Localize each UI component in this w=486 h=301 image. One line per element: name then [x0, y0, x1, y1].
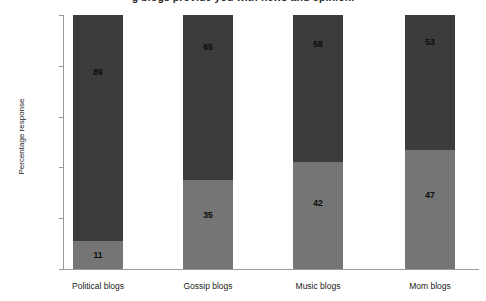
bar-music-blogs-upper-segment[interactable]: 58: [293, 15, 343, 162]
y-tick-80: [59, 66, 63, 67]
bar-music-blogs-upper-value: 58: [313, 40, 322, 49]
y-tick-0: [59, 269, 63, 270]
bar-music-blogs-lower-segment[interactable]: 42: [293, 162, 343, 269]
x-axis-label-music-blogs: Music blogs: [253, 281, 383, 291]
y-tick-100: [59, 15, 63, 16]
y-tick-40: [59, 167, 63, 168]
bar-gossip-blogs-lower-value: 35: [203, 211, 212, 220]
x-axis-line: [63, 269, 479, 270]
y-tick-60: [59, 117, 63, 118]
bar-mom-blogs-upper-value: 53: [425, 38, 434, 47]
bar-mom-blogs-lower-segment[interactable]: 47: [405, 150, 455, 269]
bar-gossip-blogs-lower-segment[interactable]: 35: [183, 180, 233, 269]
y-axis-line: [63, 15, 64, 269]
y-tick-20: [59, 218, 63, 219]
bar-political-blogs-lower-segment[interactable]: 11: [73, 241, 123, 269]
bar-mom-blogs-upper-segment[interactable]: 53: [405, 15, 455, 150]
bar-music-blogs-lower-value: 42: [313, 199, 322, 208]
bar-political-blogs-upper-value: 89: [93, 68, 102, 77]
bar-gossip-blogs-upper-value: 65: [203, 43, 212, 52]
bar-political-blogs-lower-value: 11: [94, 251, 103, 260]
chart-title: g blogs provide you with news and opinio…: [0, 0, 486, 3]
bar-political-blogs-upper-segment[interactable]: 89: [73, 15, 123, 241]
stacked-bar-chart: g blogs provide you with news and opinio…: [0, 0, 486, 301]
bar-mom-blogs-lower-value: 47: [425, 191, 434, 200]
plot-area: 0 20 40 60 80 100 89 11 Political blogs …: [64, 15, 479, 269]
bar-gossip-blogs-upper-segment[interactable]: 65: [183, 15, 233, 180]
x-axis-label-mom-blogs: Mom blogs: [365, 281, 486, 291]
y-axis-title: Percentage response: [17, 67, 26, 207]
